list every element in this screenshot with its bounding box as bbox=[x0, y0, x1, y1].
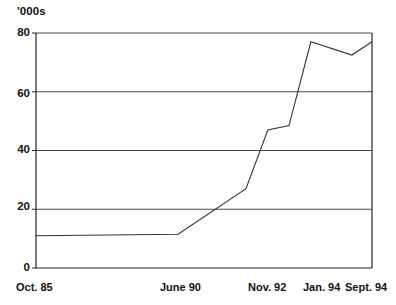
line-chart-figure: '000s 80 60 40 20 0 Oct. 85 June 90 Nov.… bbox=[0, 0, 396, 305]
plot-area bbox=[0, 0, 396, 305]
data-series-line bbox=[36, 42, 372, 236]
gridlines-group bbox=[36, 33, 372, 209]
